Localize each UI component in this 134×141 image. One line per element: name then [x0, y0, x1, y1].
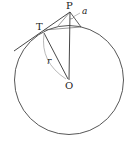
label-T: T [36, 21, 43, 32]
label-r: r [47, 56, 52, 66]
label-a: a [82, 6, 87, 16]
geometry-diagram: P T O r a [0, 0, 134, 141]
angle-pointer [73, 13, 80, 17]
label-P: P [66, 0, 73, 11]
line-PO [69, 12, 70, 80]
label-O: O [65, 80, 73, 91]
right-line [70, 12, 81, 27]
chord-line [44, 27, 81, 30]
